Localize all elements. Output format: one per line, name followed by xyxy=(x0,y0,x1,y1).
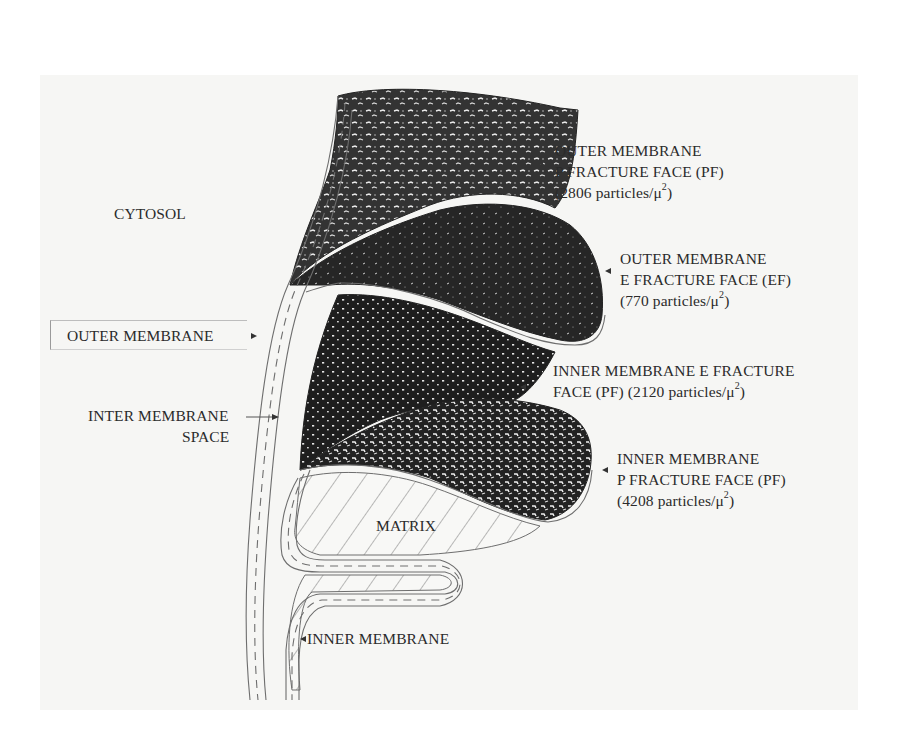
outer-membrane-pointer-icon xyxy=(251,333,257,339)
inner-membrane-pointer-icon xyxy=(300,636,306,642)
outer-pf-label: OUTER MEMBRANE P FRACTURE FACE (PF) (280… xyxy=(555,140,724,203)
inner-ef-pointer-icon xyxy=(520,384,526,390)
outer-ef-title: OUTER MEMBRANE xyxy=(620,248,791,269)
outer-ef-pointer-icon xyxy=(605,268,611,274)
outer-pf-pointer-icon xyxy=(537,160,543,166)
inner-pf-face: P FRACTURE FACE (PF) xyxy=(617,469,786,490)
outer-pf-count: (2806 particles/μ2) xyxy=(555,182,724,203)
inner-pf-label: INNER MEMBRANE P FRACTURE FACE (PF) (420… xyxy=(617,448,786,511)
outer-membrane-label: OUTER MEMBRANE xyxy=(67,325,214,346)
inter-membrane-space-arrow xyxy=(246,414,279,420)
cytosol-label: CYTOSOL xyxy=(114,203,186,224)
inter-membrane-space-label-line2: SPACE xyxy=(182,426,229,447)
inner-ef-title: INNER MEMBRANE E FRACTURE xyxy=(553,360,794,381)
inner-ef-label: INNER MEMBRANE E FRACTURE FACE (PF) (212… xyxy=(553,360,794,402)
inner-membrane-label: INNER MEMBRANE xyxy=(307,628,449,649)
outer-ef-label: OUTER MEMBRANE E FRACTURE FACE (EF) (770… xyxy=(620,248,791,311)
outer-ef-face: E FRACTURE FACE (EF) xyxy=(620,269,791,290)
inner-ef-count: FACE (PF) (2120 particles/μ2) xyxy=(553,381,794,402)
matrix-label: MATRIX xyxy=(376,515,436,536)
outer-ef-count: (770 particles/μ2) xyxy=(620,290,791,311)
outer-pf-title: OUTER MEMBRANE xyxy=(555,140,724,161)
outer-pf-face: P FRACTURE FACE (PF) xyxy=(555,161,724,182)
inter-membrane-space-label-line1: INTER MEMBRANE xyxy=(88,405,228,426)
inner-pf-count: (4208 particles/μ2) xyxy=(617,490,786,511)
inner-pf-pointer-icon xyxy=(602,467,608,473)
inner-pf-title: INNER MEMBRANE xyxy=(617,448,786,469)
